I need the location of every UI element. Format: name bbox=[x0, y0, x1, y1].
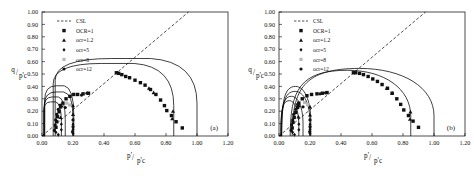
chart-panel-b: 0.000.200.400.600.801.001.200.000.100.20… bbox=[237, 0, 474, 180]
data-point bbox=[308, 130, 311, 133]
x-tick-label: 1.00 bbox=[192, 139, 203, 146]
data-point bbox=[53, 129, 56, 132]
data-point bbox=[289, 129, 292, 132]
legend-marker bbox=[62, 48, 65, 52]
legend-label: ocr=8 bbox=[76, 57, 89, 63]
legend: CSLOCR=1ocr=1.2ocr=5ocr=8ocr=12 bbox=[294, 18, 331, 72]
data-point bbox=[380, 83, 383, 86]
x-tick-label: 0.60 bbox=[130, 139, 141, 146]
panel-tag: (b) bbox=[447, 124, 456, 132]
data-point bbox=[64, 106, 67, 109]
y-tick-label: 0.00 bbox=[27, 132, 38, 139]
data-point bbox=[54, 123, 57, 126]
yield-surface-curve bbox=[292, 68, 434, 136]
x-tick-label: 1.20 bbox=[460, 139, 471, 146]
data-point bbox=[60, 128, 63, 132]
data-point bbox=[318, 92, 321, 95]
svg-text:p'c: p'c bbox=[374, 157, 382, 165]
data-point bbox=[290, 123, 293, 126]
legend-label: ocr=1.2 bbox=[313, 37, 330, 43]
data-point bbox=[308, 113, 312, 117]
data-point bbox=[163, 104, 166, 107]
data-point bbox=[165, 109, 168, 112]
legend-label: ocr=8 bbox=[313, 57, 326, 63]
data-point bbox=[85, 92, 88, 95]
y-tick-label: 0.20 bbox=[264, 107, 275, 114]
svg-text:/: / bbox=[16, 69, 18, 77]
legend-marker bbox=[299, 67, 302, 70]
panel-tag: (a) bbox=[210, 124, 218, 132]
data-point bbox=[80, 93, 83, 96]
data-point bbox=[291, 118, 294, 121]
data-point bbox=[407, 114, 410, 117]
data-point bbox=[71, 125, 74, 128]
svg-text:q: q bbox=[248, 66, 252, 74]
legend-marker bbox=[299, 48, 302, 52]
y-tick-label: 0.40 bbox=[264, 83, 275, 90]
y-tick-label: 0.80 bbox=[264, 33, 275, 40]
data-point bbox=[60, 122, 63, 126]
data-point bbox=[354, 71, 357, 74]
y-tick-label: 0.40 bbox=[27, 83, 38, 90]
y-tick-label: 0.00 bbox=[264, 132, 275, 139]
data-point bbox=[71, 104, 75, 108]
y-tick-label: 1.00 bbox=[264, 8, 275, 15]
x-axis-title: p'/p'c bbox=[127, 152, 145, 165]
plot-frame bbox=[279, 12, 465, 136]
data-point bbox=[294, 108, 297, 111]
data-point bbox=[297, 128, 300, 132]
y-tick-label: 0.50 bbox=[27, 70, 38, 77]
data-point bbox=[71, 112, 75, 116]
y-tick-label: 0.20 bbox=[27, 107, 38, 114]
data-point bbox=[68, 95, 71, 98]
y-tick-label: 0.90 bbox=[27, 21, 38, 28]
y-tick-label: 0.80 bbox=[27, 33, 38, 40]
data-point bbox=[292, 113, 295, 116]
data-point bbox=[376, 80, 379, 83]
data-point bbox=[301, 97, 304, 100]
y-tick-label: 1.00 bbox=[27, 8, 38, 15]
y-tick-label: 0.90 bbox=[264, 21, 275, 28]
legend-label: ocr=5 bbox=[76, 47, 89, 53]
legend-marker bbox=[299, 38, 303, 42]
data-point bbox=[174, 120, 177, 123]
x-tick-label: 0.00 bbox=[37, 139, 48, 146]
data-point bbox=[124, 75, 127, 78]
data-point bbox=[72, 93, 75, 96]
data-point bbox=[399, 103, 402, 106]
plot-frame bbox=[42, 12, 228, 136]
chart-panel-a: 0.000.200.400.600.801.001.200.000.100.20… bbox=[0, 0, 237, 180]
figure-container: 0.000.200.400.600.801.001.200.000.100.20… bbox=[0, 0, 474, 180]
data-series bbox=[291, 122, 311, 136]
data-point bbox=[324, 91, 327, 94]
y-tick-label: 0.30 bbox=[264, 95, 275, 102]
data-point bbox=[171, 109, 175, 113]
data-point bbox=[402, 108, 405, 111]
data-point bbox=[296, 103, 299, 106]
data-point bbox=[65, 102, 68, 105]
y-axis-title: q/p'c bbox=[11, 66, 27, 80]
legend-marker bbox=[62, 38, 66, 42]
y-tick-label: 0.70 bbox=[264, 45, 275, 52]
data-series bbox=[65, 102, 71, 107]
data-point bbox=[303, 101, 306, 104]
legend-marker bbox=[62, 29, 65, 32]
data-point bbox=[301, 105, 304, 108]
data-point bbox=[64, 97, 67, 100]
y-tick-label: 0.60 bbox=[27, 58, 38, 65]
data-point bbox=[296, 115, 300, 119]
data-point bbox=[308, 125, 311, 128]
x-tick-label: 0.80 bbox=[398, 139, 409, 146]
data-series bbox=[54, 122, 74, 136]
svg-text:/: / bbox=[253, 69, 255, 77]
legend-marker bbox=[299, 58, 302, 61]
svg-text:p'c: p'c bbox=[19, 72, 27, 80]
data-point bbox=[408, 110, 412, 114]
yield-surface-curve bbox=[53, 63, 174, 136]
data-point bbox=[310, 93, 313, 96]
data-point bbox=[59, 103, 62, 106]
data-point bbox=[306, 103, 309, 106]
svg-text:/: / bbox=[132, 154, 134, 162]
legend-label: ocr=1.2 bbox=[76, 37, 93, 43]
legend-marker bbox=[299, 29, 302, 32]
